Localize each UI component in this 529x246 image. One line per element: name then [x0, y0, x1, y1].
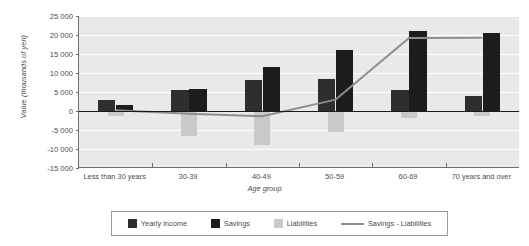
legend-item-liabilities[interactable]: Liabilities: [274, 219, 317, 228]
y-tick-mark: [76, 130, 80, 131]
swatch-darker-icon: [211, 219, 220, 228]
x-tick-mark: [299, 163, 300, 168]
legend-label: Liabilities: [287, 219, 317, 228]
y-tick-mark: [76, 149, 80, 150]
y-tick-mark: [76, 168, 80, 169]
line-series-savings-minus-liabilities: [79, 16, 519, 168]
legend-label: Savings: [224, 219, 250, 228]
x-tick-label: 50-59: [325, 172, 344, 181]
y-tick-label: 25 000: [13, 12, 73, 21]
y-tick-label: -10 000: [13, 145, 73, 154]
y-tick-mark: [76, 92, 80, 93]
y-tick-mark: [76, 35, 80, 36]
swatch-light-icon: [274, 219, 283, 228]
zero-line: [79, 111, 519, 112]
legend-item-savings-minus-liabilities[interactable]: Savings - Liabilities: [341, 219, 431, 228]
y-tick-label: 20 000: [13, 31, 73, 40]
y-tick-label: 5 000: [13, 88, 73, 97]
x-tick-label: 70 years and over: [452, 172, 511, 181]
plot-area: [78, 16, 519, 168]
x-tick-mark: [152, 163, 153, 168]
y-tick-mark: [76, 16, 80, 17]
swatch-dark-icon: [128, 219, 137, 228]
y-tick-label: 15 000: [13, 50, 73, 59]
line-marker-icon: [341, 223, 364, 225]
x-tick-label: 40-49: [252, 172, 271, 181]
legend-label: Yearly income: [141, 219, 187, 228]
x-tick-mark: [226, 163, 227, 168]
legend-label: Savings - Liabilities: [368, 219, 431, 228]
x-axis-title: Age group: [0, 184, 529, 193]
x-tick-label: Less than 30 years: [83, 172, 145, 181]
y-tick-mark: [76, 54, 80, 55]
legend-item-savings[interactable]: Savings: [211, 219, 250, 228]
y-tick-label: -15 000: [13, 164, 73, 173]
y-tick-label: 10 000: [13, 69, 73, 78]
gridline: [79, 168, 519, 169]
y-tick-label: 0: [13, 107, 73, 116]
x-tick-mark: [372, 163, 373, 168]
x-tick-mark: [446, 163, 447, 168]
chart-legend: Yearly income Savings Liabilities Saving…: [111, 211, 448, 236]
line-path: [116, 38, 483, 117]
y-tick-mark: [76, 73, 80, 74]
chart-container: Value (thousands of yen) 25 00020 00015 …: [0, 0, 529, 246]
x-tick-label: 60-69: [399, 172, 418, 181]
x-tick-label: 30-39: [179, 172, 198, 181]
y-tick-label: -5 000: [13, 126, 73, 135]
legend-item-yearly-income[interactable]: Yearly income: [128, 219, 187, 228]
